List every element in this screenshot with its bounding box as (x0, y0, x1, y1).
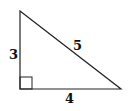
right-triangle-diagram: 3 4 5 (0, 0, 130, 111)
horizontal-side-label: 4 (65, 91, 74, 106)
vertical-side-label: 3 (9, 47, 18, 62)
triangle (20, 11, 121, 89)
hypotenuse-label: 5 (73, 38, 82, 53)
right-angle-marker (20, 77, 32, 89)
